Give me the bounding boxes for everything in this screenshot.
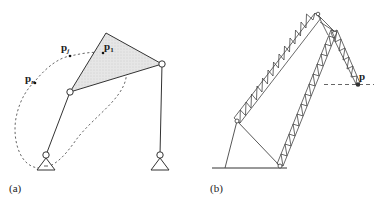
tie-line [237,121,279,165]
input-crank-link [46,92,70,155]
label-pn: pn [25,72,35,86]
output-rocker-link [160,64,162,155]
point-p1-marker [102,52,105,55]
label-p: p [359,70,365,82]
joint-right-coupler [159,61,165,67]
panel-b-caption: (b) [210,182,223,195]
panel-b-crane-linkage: p (b) [210,12,374,195]
ground-support-right-icon [151,158,169,170]
lattice-boom-main [234,13,321,123]
coupler-triangle [70,33,162,92]
label-pj: pj [61,41,69,55]
pivot-boom-base [278,164,282,168]
support-strut [225,121,237,168]
panel-a-caption: (a) [9,182,22,195]
joint-left-coupler [67,89,73,95]
pivot-boom-top [316,12,320,16]
pivot-boom-lower-left [235,119,239,123]
end-effector-point-p [356,82,361,87]
figure-canvas: p1 pj pn (a) [0,0,384,205]
lattice-jib [331,30,360,84]
panel-a-four-bar-linkage: p1 pj pn (a) [9,33,169,195]
ground-support-left-icon [37,158,55,170]
point-pj-marker [69,55,72,58]
